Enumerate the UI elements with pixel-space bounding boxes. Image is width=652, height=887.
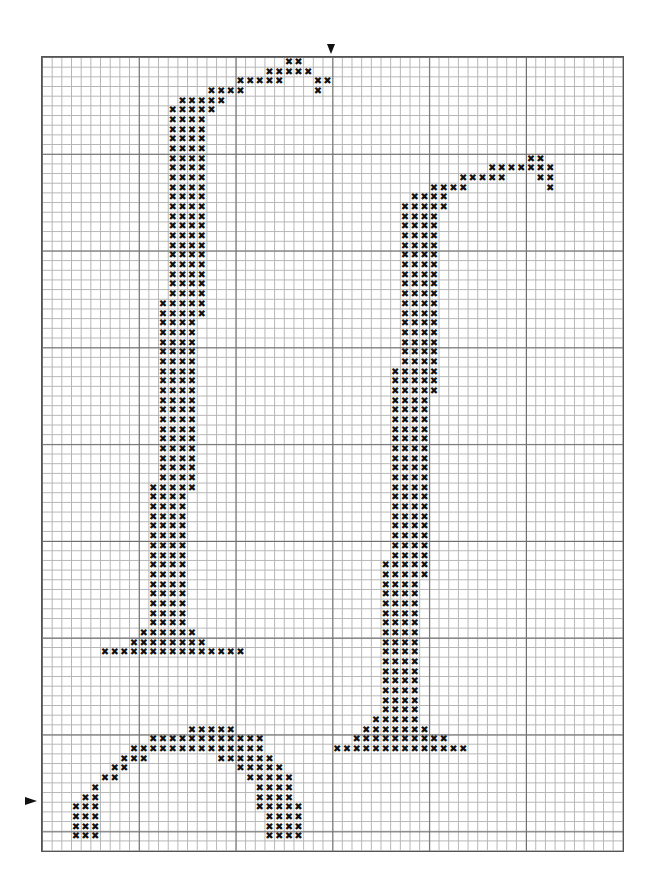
stitch-cell: ✖ <box>245 773 255 783</box>
stitch-cell: ✖ <box>458 183 468 193</box>
stitch-cell: ✖ <box>294 831 304 841</box>
stitch-cell: ✖ <box>110 773 120 783</box>
stitch-cell: ✖ <box>245 76 255 86</box>
stitch-cell: ✖ <box>148 647 158 657</box>
stitch-cell: ✖ <box>487 173 497 183</box>
stitch-cell: ✖ <box>226 86 236 96</box>
stitch-cell: ✖ <box>148 744 158 754</box>
stitch-cell: ✖ <box>468 173 478 183</box>
stitch-cell: ✖ <box>497 173 507 183</box>
stitch-cell: ✖ <box>255 76 265 86</box>
stitch-cell: ✖ <box>400 744 410 754</box>
stitch-cell: ✖ <box>371 744 381 754</box>
stitch-cell: ✖ <box>342 744 352 754</box>
stitch-cell: ✖ <box>526 163 536 173</box>
stitch-cell: ✖ <box>100 647 110 657</box>
center-row-arrow-icon <box>25 797 37 805</box>
stitch-cell: ✖ <box>390 744 400 754</box>
stitch-cell: ✖ <box>536 173 546 183</box>
center-column-arrow-icon <box>327 44 335 54</box>
stitch-cell: ✖ <box>81 831 91 841</box>
stitch-cell: ✖ <box>361 744 371 754</box>
stitch-cell: ✖ <box>187 744 197 754</box>
stitch-cell: ✖ <box>420 570 430 580</box>
stitch-cell: ✖ <box>313 86 323 96</box>
stitch-cell: ✖ <box>90 831 100 841</box>
stitch-cell: ✖ <box>507 163 517 173</box>
stitch-cell: ✖ <box>207 744 217 754</box>
stitch-cell: ✖ <box>197 744 207 754</box>
stitch-cell: ✖ <box>71 831 81 841</box>
stitch-cell: ✖ <box>178 647 188 657</box>
stitch-cell: ✖ <box>323 76 333 86</box>
stitch-cell: ✖ <box>207 647 217 657</box>
stitch-cell: ✖ <box>178 744 188 754</box>
stitch-cell: ✖ <box>100 773 110 783</box>
stitch-cell: ✖ <box>168 744 178 754</box>
stitch-cell: ✖ <box>129 754 139 764</box>
stitch-cell: ✖ <box>274 76 284 86</box>
stitch-cell: ✖ <box>226 647 236 657</box>
stitch-cell: ✖ <box>381 744 391 754</box>
stitch-cell: ✖ <box>284 831 294 841</box>
stitch-cell: ✖ <box>332 744 342 754</box>
stitch-cell: ✖ <box>119 647 129 657</box>
stitch-cell: ✖ <box>516 163 526 173</box>
stitch-cell: ✖ <box>158 647 168 657</box>
stitch-cell: ✖ <box>265 76 275 86</box>
stitch-cell: ✖ <box>265 831 275 841</box>
stitch-cell: ✖ <box>110 647 120 657</box>
stitch-cell: ✖ <box>274 831 284 841</box>
stitch-cell: ✖ <box>458 744 468 754</box>
stitch-cell: ✖ <box>197 647 207 657</box>
stitch-cell: ✖ <box>216 754 226 764</box>
stitch-cell: ✖ <box>352 744 362 754</box>
stitch-cell: ✖ <box>226 754 236 764</box>
stitch-cell: ✖ <box>158 744 168 754</box>
stitch-cell: ✖ <box>187 483 197 493</box>
stitch-cell: ✖ <box>129 647 139 657</box>
stitch-cell: ✖ <box>429 386 439 396</box>
stitch-cell: ✖ <box>449 744 459 754</box>
stitch-cell: ✖ <box>168 647 178 657</box>
stitch-cell: ✖ <box>545 183 555 193</box>
stitch-cell: ✖ <box>216 647 226 657</box>
stitch-cell: ✖ <box>284 67 294 77</box>
stitch-cell: ✖ <box>410 744 420 754</box>
stitch-cell: ✖ <box>439 202 449 212</box>
stitch-cell: ✖ <box>439 744 449 754</box>
stitch-cell: ✖ <box>236 764 246 774</box>
stitch-cell: ✖ <box>119 764 129 774</box>
stitch-cell: ✖ <box>449 183 459 193</box>
stitch-cell: ✖ <box>139 754 149 764</box>
stitch-cell: ✖ <box>236 86 246 96</box>
stitch-cell: ✖ <box>207 105 217 115</box>
stitch-cell: ✖ <box>294 67 304 77</box>
stitch-cell: ✖ <box>236 647 246 657</box>
stitch-cell: ✖ <box>197 309 207 319</box>
stitch-cell: ✖ <box>303 67 313 77</box>
stitch-cell: ✖ <box>255 802 265 812</box>
stitch-cell: ✖ <box>216 96 226 106</box>
stitch-cell: ✖ <box>139 647 149 657</box>
stitch-cell: ✖ <box>478 173 488 183</box>
stitch-cell: ✖ <box>429 744 439 754</box>
stitch-cell: ✖ <box>187 647 197 657</box>
stitch-cell: ✖ <box>420 744 430 754</box>
